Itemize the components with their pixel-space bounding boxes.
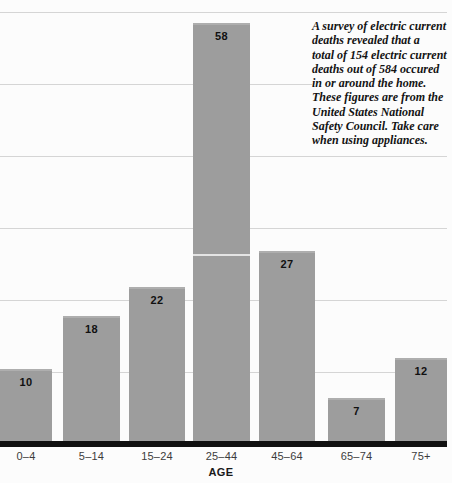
x-axis-title: AGE — [208, 466, 233, 478]
bar-value-label: 10 — [0, 369, 52, 388]
bar-45-64: 27 — [259, 251, 315, 441]
x-tick-label: 15–24 — [141, 450, 173, 462]
annotation-line: deaths revealed that a — [312, 33, 452, 47]
annotation-line: Safety Council. Take care — [312, 119, 452, 133]
bar-65-74: 7 — [328, 398, 385, 441]
bar-25-44: 58 — [193, 23, 250, 441]
bar-value-label: 22 — [129, 287, 185, 306]
bar-value-label: 12 — [395, 358, 447, 377]
annotation-line: total of 154 electric current — [312, 48, 452, 62]
annotation-line: A survey of electric current — [312, 19, 452, 33]
annotation-line: deaths out of 584 occured — [312, 62, 452, 76]
bar-0-4: 10 — [0, 369, 52, 441]
bar-75+: 12 — [395, 358, 447, 441]
x-tick-label: 75+ — [411, 450, 430, 462]
x-axis-line — [0, 441, 447, 447]
x-tick-label: 5–14 — [79, 450, 104, 462]
annotation-line: when using appliances. — [312, 133, 452, 147]
annotation-line: United States National — [312, 105, 452, 119]
x-tick-label: 0–4 — [17, 450, 36, 462]
bar-value-label: 18 — [63, 316, 120, 335]
bar-5-14: 18 — [63, 316, 120, 441]
x-tick-label: 25–44 — [206, 450, 238, 462]
bar-value-label: 7 — [328, 398, 385, 417]
x-tick-label: 65–74 — [341, 450, 373, 462]
bar-value-label: 58 — [193, 23, 250, 42]
annotation-line: in or around the home. — [312, 76, 452, 90]
annotation-text: A survey of electric currentdeaths revea… — [312, 19, 452, 148]
gridline-60 — [0, 12, 447, 13]
bar-15-24: 22 — [129, 287, 185, 441]
bar-value-label: 27 — [259, 251, 315, 270]
scan-artifact-line — [193, 254, 250, 256]
x-tick-label: 45–64 — [271, 450, 303, 462]
annotation-line: These figures are from the — [312, 90, 452, 104]
